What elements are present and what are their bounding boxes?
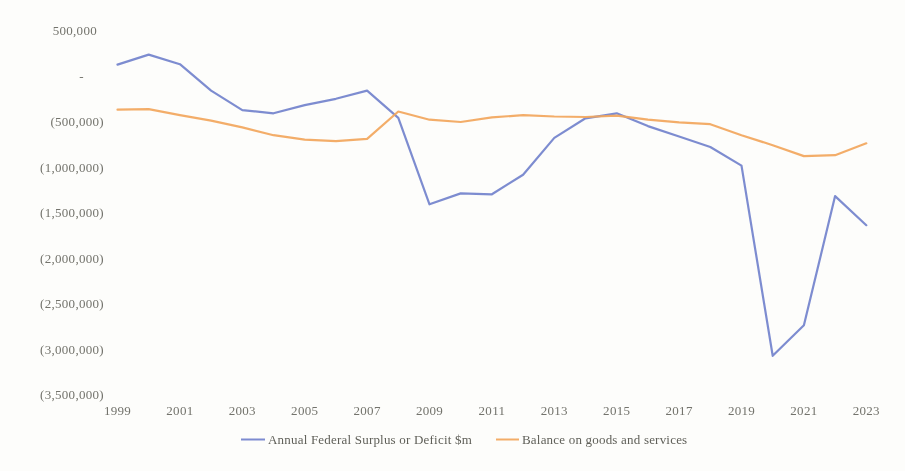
x-tick-label: 2023 [853, 403, 880, 418]
x-tick-label: 2021 [790, 403, 817, 418]
y-tick-label: (3,000,000) [40, 342, 104, 357]
legend: Annual Federal Surplus or Deficit $mBala… [241, 432, 687, 447]
y-tick-label: (2,500,000) [40, 296, 104, 311]
y-tick-label: - [79, 69, 84, 84]
x-tick-label: 2019 [728, 403, 755, 418]
x-tick-label: 2011 [479, 403, 506, 418]
x-tick-label: 2015 [603, 403, 630, 418]
x-tick-label: 2001 [166, 403, 193, 418]
x-tick-label: 1999 [104, 403, 131, 418]
plot-area [118, 55, 867, 356]
legend-label: Balance on goods and services [522, 432, 687, 447]
series-line-goods-services-balance [118, 109, 867, 156]
y-tick-label: (1,500,000) [40, 205, 104, 220]
x-tick-label: 2013 [541, 403, 568, 418]
x-tick-label: 2003 [229, 403, 256, 418]
line-chart: 500,000-(500,000)(1,000,000)(1,500,000)(… [0, 0, 905, 471]
y-tick-label: (1,000,000) [40, 160, 104, 175]
x-tick-label: 2017 [665, 403, 692, 418]
y-tick-label: (2,000,000) [40, 251, 104, 266]
y-axis: 500,000-(500,000)(1,000,000)(1,500,000)(… [40, 23, 104, 402]
chart-figure: 500,000-(500,000)(1,000,000)(1,500,000)(… [0, 0, 905, 471]
x-axis: 1999200120032005200720092011201320152017… [104, 403, 880, 418]
y-tick-label: 500,000 [53, 23, 97, 38]
x-tick-label: 2005 [291, 403, 318, 418]
y-tick-label: (500,000) [50, 114, 104, 129]
y-tick-label: (3,500,000) [40, 387, 104, 402]
series-line-federal-surplus-deficit [118, 55, 867, 356]
x-tick-label: 2009 [416, 403, 443, 418]
x-tick-label: 2007 [353, 403, 380, 418]
legend-label: Annual Federal Surplus or Deficit $m [268, 432, 472, 447]
